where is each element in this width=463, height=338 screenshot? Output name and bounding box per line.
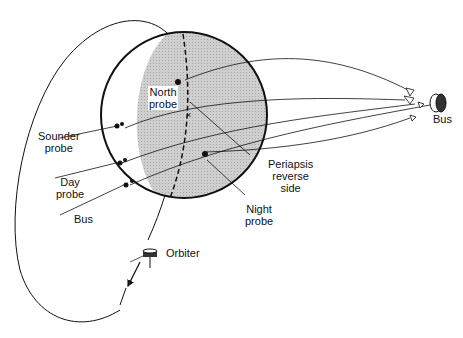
- orbiter-icon: [130, 249, 157, 268]
- trajectory-diagram: ×: [0, 0, 463, 338]
- label-bus-left: Bus: [74, 213, 93, 225]
- bus-spacecraft-icon: [430, 94, 446, 112]
- diagram-canvas: × Northprobe Sounderprobe Dayprobe Bus B: [0, 0, 463, 338]
- label-night-probe: Nightprobe: [245, 203, 273, 227]
- label-orbiter: Orbiter: [166, 247, 200, 259]
- label-bus-right: Bus: [433, 113, 452, 125]
- label-sounder-probe: Sounderprobe: [38, 130, 80, 154]
- svg-text:×: ×: [186, 110, 191, 120]
- label-day-probe: Dayprobe: [56, 176, 84, 200]
- label-north-probe: Northprobe: [148, 86, 178, 110]
- label-periapsis: Periapsisreverseside: [268, 158, 313, 194]
